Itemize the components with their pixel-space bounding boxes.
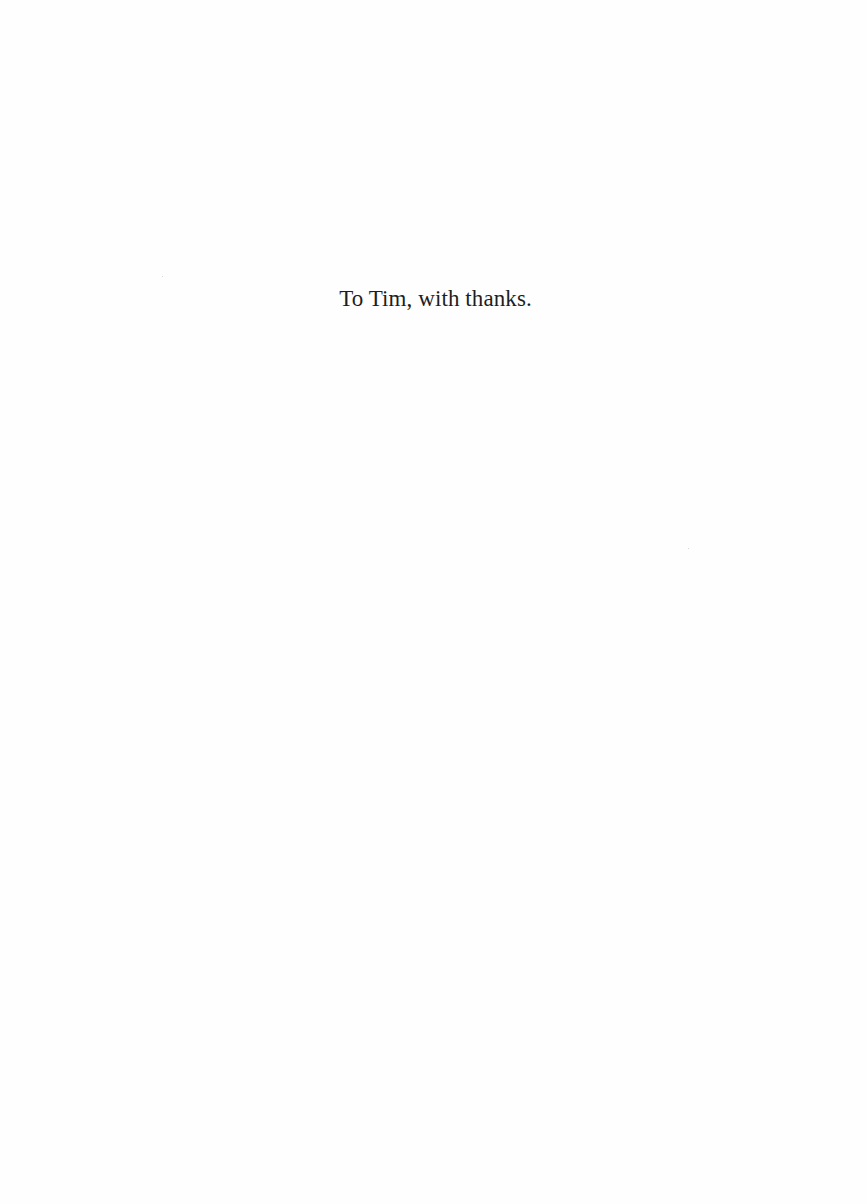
document-page: To Tim, with thanks. xyxy=(0,0,867,1204)
scan-speck xyxy=(688,548,689,549)
dedication-text: To Tim, with thanks. xyxy=(0,284,867,314)
scan-speck xyxy=(162,276,163,277)
